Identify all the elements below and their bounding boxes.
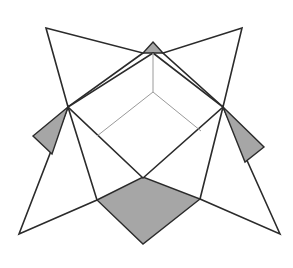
tab-top	[143, 42, 163, 53]
box-net-diagram	[0, 0, 293, 268]
tab-bottom	[97, 177, 200, 244]
